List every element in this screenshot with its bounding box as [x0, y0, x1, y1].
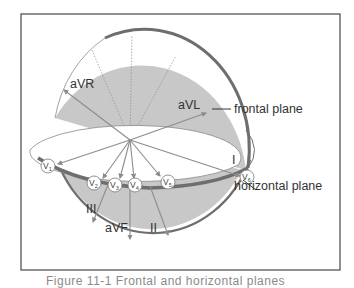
label-aVF: aVF [105, 221, 128, 235]
callout-horizontal-plane: horizontal plane [234, 179, 322, 193]
label-II: II [150, 221, 157, 235]
figure-caption: Figure 11-1 Frontal and horizontal plane… [46, 274, 285, 288]
callout-frontal-plane: frontal plane [234, 102, 303, 116]
label-aVR: aVR [70, 77, 94, 91]
label-aVL: aVL [178, 98, 200, 112]
label-I: I [232, 153, 235, 167]
label-III: III [86, 202, 96, 216]
